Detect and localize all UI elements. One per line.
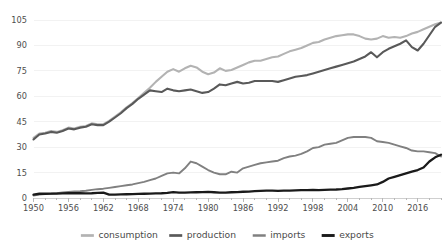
x-tick-label: 1980 <box>198 203 219 213</box>
x-tick-label: 2010 <box>372 203 393 213</box>
x-tick-label: 1950 <box>23 203 44 213</box>
x-tick-label: 1986 <box>233 203 254 213</box>
x-tick-label: 1992 <box>268 203 289 213</box>
legend-label-exports[interactable]: exports <box>339 229 374 240</box>
x-tick-label: 2004 <box>337 203 358 213</box>
y-axis-tick-labels: 0153045607590105 <box>11 15 27 203</box>
x-tick-label: 1974 <box>163 203 184 213</box>
y-tick-label: 105 <box>11 15 27 25</box>
x-tick-label: 1956 <box>58 203 79 213</box>
series-line-consumption <box>34 23 442 138</box>
line-chart: 0153045607590105 19501956196219681974198… <box>0 0 446 252</box>
series-line-imports <box>34 137 442 195</box>
x-tick-label: 1968 <box>128 203 149 213</box>
chart-legend: consumptionproductionimportsexports <box>81 229 374 240</box>
legend-label-imports[interactable]: imports <box>270 229 305 240</box>
x-axis-tickmarks <box>34 198 442 202</box>
legend-label-production[interactable]: production <box>187 229 237 240</box>
y-tick-label: 75 <box>17 66 27 76</box>
legend-label-consumption[interactable]: consumption <box>98 229 158 240</box>
x-tick-label: 2016 <box>407 203 428 213</box>
y-tick-label: 60 <box>17 91 27 101</box>
gridlines <box>34 20 442 198</box>
y-tick-label: 90 <box>17 40 27 50</box>
chart-container: 0153045607590105 19501956196219681974198… <box>0 0 446 252</box>
y-tick-label: 30 <box>17 142 27 152</box>
y-tick-label: 15 <box>17 168 27 178</box>
x-tick-label: 1998 <box>303 203 324 213</box>
data-series-group <box>34 23 442 196</box>
x-tick-label: 1962 <box>93 203 114 213</box>
y-tick-label: 0 <box>22 193 27 203</box>
y-tick-label: 45 <box>17 117 27 127</box>
x-axis-tick-labels: 1950195619621968197419801986199219982004… <box>23 203 428 213</box>
plot-area-wrapper: 0153045607590105 19501956196219681974198… <box>0 0 446 252</box>
